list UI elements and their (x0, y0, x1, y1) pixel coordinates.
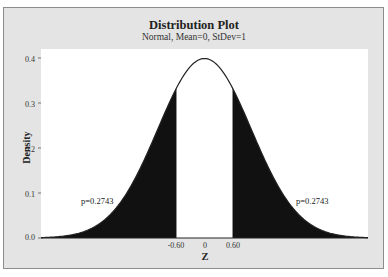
right-tail-probability-label: p=0.2743 (296, 196, 328, 206)
x-axis-label: Z (0, 251, 388, 262)
y-axis-ticks (38, 58, 41, 238)
y-tick-label: 0.1 (5, 190, 35, 199)
y-tick-label: 0.3 (5, 100, 35, 109)
left-tail-probability-label: p=0.2743 (81, 196, 113, 206)
y-tick-label: 0.0 (5, 233, 35, 242)
y-tick-label: 0.4 (5, 55, 35, 64)
plot-background (41, 49, 368, 238)
y-tick-label: 0.2 (5, 145, 35, 154)
plot-area (0, 0, 388, 277)
x-tick-label: 0.60 (213, 241, 253, 250)
